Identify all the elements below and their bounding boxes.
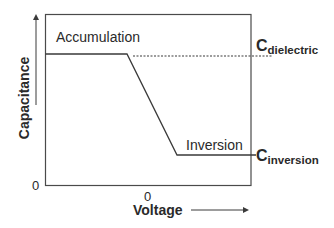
accumulation-label: Accumulation	[56, 29, 140, 45]
c-dielectric-main: C	[256, 37, 268, 54]
inversion-label: Inversion	[186, 137, 243, 153]
c-dielectric-label: Cdielectric	[256, 37, 319, 56]
y-axis-title: Capacitance	[16, 57, 32, 140]
y-zero-label: 0	[32, 178, 39, 193]
x-axis-title: Voltage	[133, 202, 183, 218]
cv-diagram: Accumulation Inversion Cdielectric Cinve…	[0, 0, 334, 228]
c-inversion-main: C	[256, 147, 268, 164]
c-inversion-sub: inversion	[268, 154, 319, 166]
c-dielectric-sub: dielectric	[268, 44, 319, 56]
c-inversion-label: Cinversion	[256, 147, 319, 166]
